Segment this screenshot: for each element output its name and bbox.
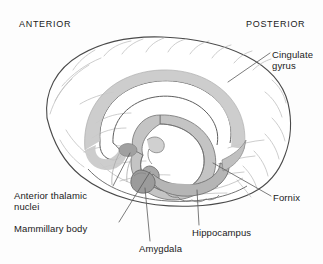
label-hippocampus: Hippocampus [192,227,264,238]
label-fornix: Fornix [273,192,321,203]
label-mammillary-body: Mammillary body [14,223,118,234]
label-cingulate-gyrus: Cingulate gyrus [272,49,322,71]
limbic-system-figure: ANTERIOR POSTERIOR Cingulate gyrus Forni… [0,0,323,264]
anterior-thalamic-nuclei-marker [119,144,137,157]
orientation-label-anterior: ANTERIOR [19,19,71,29]
orientation-label-posterior: POSTERIOR [246,19,305,29]
label-amygdala: Amygdala [139,243,199,254]
label-anterior-thalamic-nuclei: Anterior thalamic nuclei [14,190,116,212]
